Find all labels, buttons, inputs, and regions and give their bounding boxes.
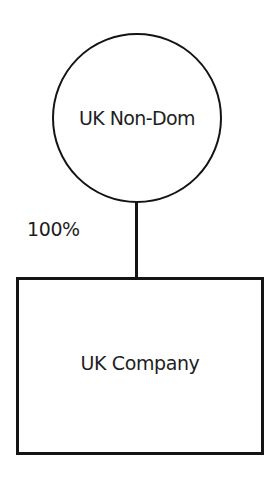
company-node-uk-company: UK Company	[16, 277, 264, 455]
ownership-percentage-label: 100%	[27, 218, 80, 240]
owner-node-uk-non-dom: UK Non-Dom	[52, 33, 222, 203]
company-node-label: UK Company	[81, 352, 200, 374]
owner-node-label: UK Non-Dom	[79, 107, 195, 129]
ownership-connector-line	[135, 202, 138, 280]
